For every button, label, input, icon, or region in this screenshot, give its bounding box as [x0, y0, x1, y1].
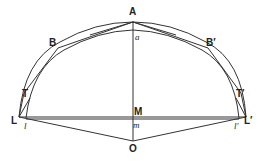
diagram-figure: [0, 0, 266, 163]
label-L: L: [11, 116, 17, 126]
label-a: a: [135, 33, 140, 42]
label-T-prime: T′: [236, 89, 245, 99]
label-M: M: [134, 107, 142, 117]
label-O: O: [129, 144, 137, 154]
label-B: B: [49, 38, 56, 48]
label-B-prime: B′: [206, 38, 216, 48]
label-l-prime: l′: [234, 122, 238, 131]
label-A: A: [129, 7, 136, 17]
radius-OL-prime: [133, 117, 246, 141]
label-L-prime: L′: [244, 116, 253, 126]
label-l: l: [24, 122, 27, 131]
label-m: m: [133, 121, 140, 130]
geometry-diagram: A a B B′ T T′ L L′ l l′ M m O: [0, 0, 266, 163]
label-T: T: [22, 89, 28, 99]
radius-OL: [19, 117, 133, 141]
